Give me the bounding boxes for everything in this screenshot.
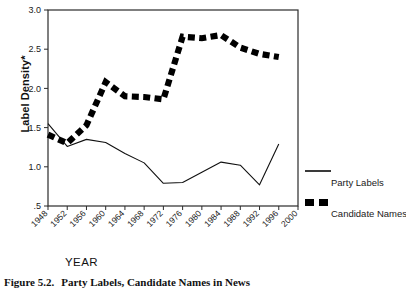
figure-caption: Figure 5.2.Party Labels, Candidate Names… <box>4 276 250 288</box>
x-tick-label: 1976 <box>164 208 185 229</box>
x-tick-label: 1984 <box>202 208 223 229</box>
x-tick-label: 1952 <box>48 208 69 229</box>
legend-key-line-icon <box>305 166 405 176</box>
y-axis-title: Label Density* <box>19 34 31 154</box>
x-tick-label: 1964 <box>106 208 127 229</box>
x-axis-title: YEAR <box>65 256 98 268</box>
legend-key-dash-icon <box>305 197 405 207</box>
x-tick-label: 1948 <box>29 208 50 229</box>
caption-text: Party Labels, Candidate Names in News <box>61 276 250 288</box>
x-tick-label: 1968 <box>125 208 146 229</box>
series-candidate-names <box>48 35 279 143</box>
legend-item-candidate-names: Candidate Names <box>305 197 405 219</box>
y-tick-label: 3.0 <box>28 5 41 15</box>
legend-label-candidate-names: Candidate Names <box>305 208 405 219</box>
x-tick-label: 1988 <box>221 208 242 229</box>
x-tick-label: 1956 <box>67 208 88 229</box>
x-tick-label: 1992 <box>241 208 262 229</box>
figure-container: 3.02.52.01.51.0.519481952195619601964196… <box>0 0 406 295</box>
legend-label-party-labels: Party Labels <box>305 177 405 188</box>
x-tick-label: 1980 <box>183 208 204 229</box>
x-tick-label: 1972 <box>144 208 165 229</box>
x-tick-label: 1960 <box>87 208 108 229</box>
x-tick-label: 2000 <box>279 208 300 229</box>
chart-legend: Party Labels Candidate Names <box>305 166 405 222</box>
legend-item-party-labels: Party Labels <box>305 166 405 188</box>
chart-plot: 3.02.52.01.51.0.519481952195619601964196… <box>0 0 406 295</box>
caption-number: Figure 5.2. <box>4 276 54 288</box>
y-tick-label: 1.0 <box>28 162 41 172</box>
x-tick-label: 1996 <box>260 208 281 229</box>
plot-border <box>48 10 298 206</box>
